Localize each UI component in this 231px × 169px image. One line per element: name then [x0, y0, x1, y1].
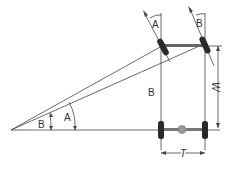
- tie-rod: [163, 44, 205, 47]
- label-track: T: [180, 148, 187, 159]
- ray-to-outer-wheel: [11, 44, 204, 130]
- angle-arc-B-top: [196, 14, 205, 15]
- label-wheelbase: W: [210, 82, 221, 93]
- label-inner-wheel-angle: A: [152, 19, 159, 30]
- label-apex-angle-inner: A: [64, 112, 71, 123]
- label-apex-angle-outer: B: [38, 119, 45, 130]
- label-wheelbase-side: B: [148, 87, 155, 98]
- steering-geometry-diagram: A B B B A W T: [0, 0, 231, 169]
- differential: [178, 126, 186, 134]
- heading-arrow-outer: [188, 6, 193, 13]
- label-outer-wheel-angle: B: [196, 18, 203, 29]
- rear-left-wheel: [158, 121, 164, 139]
- heading-arrow-inner: [143, 10, 148, 17]
- rear-right-wheel: [202, 121, 208, 139]
- ray-to-inner-wheel: [11, 46, 162, 130]
- angle-arc-A-top: [150, 15, 161, 18]
